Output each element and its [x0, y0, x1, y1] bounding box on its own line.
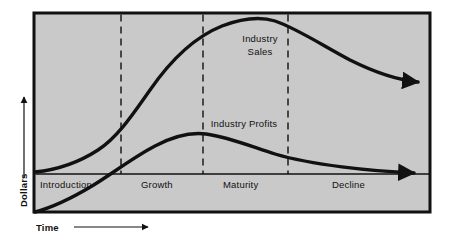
stage-label-decline: Decline: [332, 179, 365, 190]
stage-label-introduction: Introduction: [40, 179, 92, 190]
series-label-industry-sales-line2: Sales: [248, 46, 273, 57]
product-life-cycle-figure: Industry Sales Industry Profits Introduc…: [0, 0, 451, 243]
series-label-industry-profits: Industry Profits: [211, 118, 278, 129]
y-axis-label: Dollars: [18, 173, 29, 207]
x-axis-label: Time: [36, 222, 59, 233]
stage-label-maturity: Maturity: [223, 179, 258, 190]
stage-label-growth: Growth: [141, 179, 173, 190]
chart-canvas: Industry Sales Industry Profits Introduc…: [0, 0, 451, 243]
series-label-industry-sales-line1: Industry: [242, 33, 277, 44]
